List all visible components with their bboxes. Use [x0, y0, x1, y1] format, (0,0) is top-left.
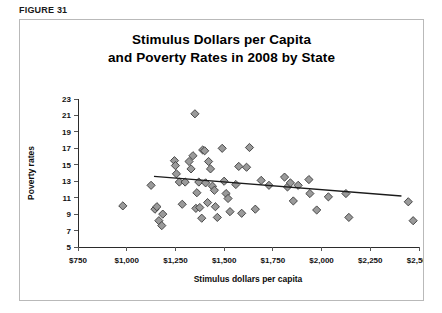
data-point-marker: [345, 213, 353, 221]
data-point-marker: [191, 110, 199, 118]
data-point-marker: [198, 214, 206, 222]
data-point-marker: [147, 181, 155, 189]
data-point-marker: [245, 143, 253, 151]
x-tick-label: $750: [69, 256, 87, 265]
data-point-marker: [211, 203, 219, 211]
data-point-marker: [280, 173, 288, 181]
data-point-marker: [204, 157, 212, 165]
y-axis-title: Poverty rates: [26, 146, 36, 200]
y-axis-ticks: 57911131517192123: [62, 95, 78, 252]
data-point-marker: [203, 199, 211, 207]
data-point-marker: [238, 209, 246, 217]
data-point-marker: [206, 165, 214, 173]
y-tick-label: 11: [63, 194, 72, 203]
data-point-marker: [251, 205, 259, 213]
data-point-marker: [409, 217, 417, 225]
y-tick-label: 15: [62, 161, 71, 170]
x-tick-label: $1,000: [114, 256, 139, 265]
data-points-group: [119, 110, 418, 230]
data-point-marker: [242, 163, 250, 171]
y-tick-label: 23: [62, 95, 71, 104]
data-point-marker: [226, 208, 234, 216]
y-tick-label: 13: [62, 177, 71, 186]
y-tick-label: 19: [62, 128, 71, 137]
figure-container: FIGURE 31 Stimulus Dollars per Capita an…: [0, 0, 442, 313]
data-point-marker: [218, 144, 226, 152]
figure-label: FIGURE 31: [19, 5, 67, 15]
y-tick-label: 21: [62, 111, 71, 120]
x-tick-label: $1,250: [163, 256, 188, 265]
data-point-marker: [235, 162, 243, 170]
y-tick-label: 5: [67, 243, 72, 252]
y-tick-label: 17: [62, 144, 71, 153]
data-point-marker: [313, 206, 321, 214]
trendline: [154, 176, 401, 196]
x-tick-label: $2,250: [358, 256, 383, 265]
data-point-marker: [172, 170, 180, 178]
y-tick-label: 9: [67, 210, 72, 219]
data-point-marker: [187, 165, 195, 173]
data-point-marker: [232, 180, 240, 188]
data-point-marker: [213, 213, 221, 221]
data-point-marker: [306, 189, 314, 197]
x-tick-label: $1,500: [212, 256, 237, 265]
x-tick-label: $2,000: [309, 256, 334, 265]
data-point-marker: [257, 176, 265, 184]
data-point-marker: [178, 200, 186, 208]
x-tick-label: $2,500: [407, 256, 423, 265]
data-point-marker: [193, 189, 201, 197]
data-point-marker: [289, 197, 297, 205]
x-tick-label: $1,750: [261, 256, 286, 265]
data-point-marker: [404, 198, 412, 206]
data-point-marker: [305, 175, 313, 183]
data-point-marker: [119, 202, 127, 210]
data-point-marker: [342, 189, 350, 197]
chart-frame: Stimulus Dollars per Capita and Poverty …: [19, 19, 424, 301]
scatter-plot: 57911131517192123 $750$1,000$1,250$1,500…: [20, 20, 423, 300]
y-tick-label: 7: [67, 227, 72, 236]
data-point-marker: [324, 193, 332, 201]
x-axis-title: Stimulus dollars per capita: [194, 274, 303, 284]
x-axis-ticks: $750$1,000$1,250$1,500$1,750$2,000$2,250…: [69, 247, 423, 265]
